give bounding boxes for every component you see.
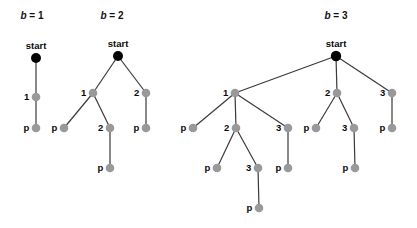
tree-node (388, 124, 397, 133)
node-label-p: p (23, 122, 29, 133)
start-node (331, 51, 341, 61)
node-label-p: p (204, 162, 210, 173)
tree-node (312, 124, 321, 133)
tree-node (60, 124, 69, 133)
node-label-p: p (246, 202, 252, 213)
tree-node (142, 89, 151, 98)
node-label-p: p (379, 122, 385, 133)
node-label-p: p (303, 122, 309, 133)
node-label-action: 1 (223, 87, 229, 98)
node-label-action: 1 (81, 87, 87, 98)
tree-node (333, 89, 342, 98)
node-label-action: 2 (98, 122, 103, 133)
branching-factor-diagram: start1pstart12p2ppstart123p23p3ppp3pp b … (0, 0, 417, 228)
start-node-label: start (108, 38, 129, 49)
node-label-action: 2 (134, 87, 139, 98)
node-label-p: p (97, 162, 103, 173)
tree-node (388, 89, 397, 98)
tree-node (232, 124, 241, 133)
node-label-p: p (133, 122, 139, 133)
panel-title: b = 1 (20, 10, 44, 21)
diagram-background (0, 0, 417, 228)
node-label-action: 3 (276, 122, 281, 133)
node-label-p: p (342, 162, 348, 173)
node-label-action: 2 (224, 122, 229, 133)
tree-node (350, 124, 359, 133)
node-label-p: p (275, 162, 281, 173)
tree-node (231, 89, 240, 98)
start-node-label: start (326, 38, 347, 49)
tree-node (32, 124, 41, 133)
node-label-action: 3 (342, 122, 347, 133)
tree-node (106, 124, 115, 133)
node-label-action: 3 (246, 162, 251, 173)
start-node-label: start (26, 40, 47, 51)
start-node (31, 53, 41, 63)
node-label-action: 1 (24, 91, 30, 102)
tree-node (254, 164, 263, 173)
node-label-p: p (180, 122, 186, 133)
panel-title: b = 2 (100, 10, 124, 21)
node-label-action: 3 (380, 87, 385, 98)
start-node (113, 51, 123, 61)
node-label-p: p (51, 122, 57, 133)
tree-node (32, 93, 41, 102)
tree-node (89, 89, 98, 98)
node-label-action: 2 (325, 87, 330, 98)
tree-node (351, 164, 360, 173)
tree-node (284, 124, 293, 133)
tree-node (189, 124, 198, 133)
panel-title: b = 3 (324, 10, 348, 21)
tree-node (106, 164, 115, 173)
tree-node (142, 124, 151, 133)
tree-node (255, 204, 264, 213)
tree-node (213, 164, 222, 173)
tree-node (284, 164, 293, 173)
